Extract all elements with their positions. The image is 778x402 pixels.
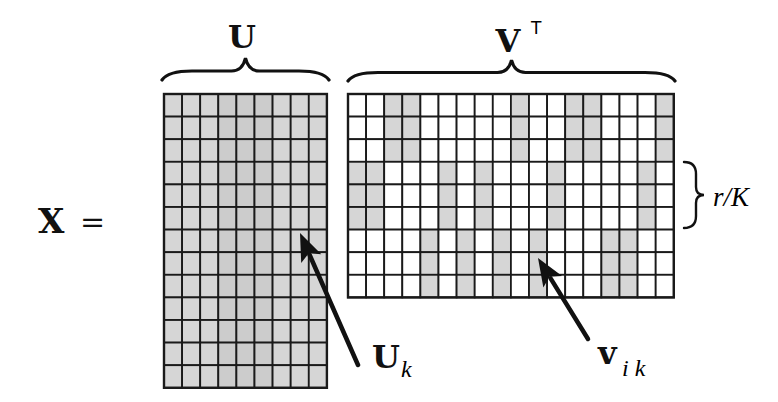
matrix-cell <box>291 184 309 207</box>
matrix-cell <box>348 252 366 275</box>
matrix-cell <box>164 365 182 388</box>
matrix-cell <box>439 139 457 162</box>
matrix-cell <box>309 117 327 140</box>
matrix-cell <box>291 297 309 320</box>
matrix-cell <box>273 117 291 140</box>
matrix-cell <box>529 139 547 162</box>
matrix-cell <box>200 117 218 140</box>
matrix-cell <box>291 365 309 388</box>
row-group-brace <box>684 162 704 228</box>
matrix-cell <box>182 117 200 140</box>
matrix-cell <box>273 343 291 366</box>
matrix-cell <box>200 365 218 388</box>
matrix-cell <box>164 320 182 343</box>
matrix-cell <box>291 117 309 140</box>
matrix-cell <box>200 275 218 298</box>
matrix-cell <box>583 275 601 298</box>
matrix-cell <box>164 275 182 298</box>
matrix-cell <box>164 207 182 230</box>
matrix-cell <box>656 275 674 298</box>
matrix-cell <box>439 117 457 140</box>
matrix-cell <box>273 320 291 343</box>
matrix-cell <box>656 94 674 117</box>
matrix-cell <box>601 162 619 185</box>
matrix-cell <box>402 252 420 275</box>
matrix-cell <box>236 275 254 298</box>
matrix-cell <box>384 117 402 140</box>
matrix-cell <box>348 207 366 230</box>
matrix-cell <box>291 207 309 230</box>
matrix-cell <box>236 94 254 117</box>
matrix-cell <box>366 184 384 207</box>
matrix-cell <box>565 275 583 298</box>
matrix-cell <box>273 297 291 320</box>
matrix-cell <box>529 230 547 253</box>
matrix-cell <box>457 207 475 230</box>
matrix-cell <box>402 275 420 298</box>
matrix-cell <box>565 184 583 207</box>
matrix-cell <box>656 184 674 207</box>
matrix-cell <box>402 139 420 162</box>
matrix-cell <box>384 207 402 230</box>
matrix-cell <box>529 207 547 230</box>
matrix-cell <box>547 117 565 140</box>
matrix-cell <box>348 139 366 162</box>
matrix-cell <box>402 207 420 230</box>
matrix-cell <box>656 207 674 230</box>
matrix-cell <box>511 252 529 275</box>
matrix-cell <box>420 162 438 185</box>
matrix-cell <box>511 139 529 162</box>
matrix-cell <box>182 343 200 366</box>
matrix-cell <box>236 343 254 366</box>
matrix-cell <box>529 162 547 185</box>
matrix-cell <box>255 184 273 207</box>
matrix-cell <box>583 162 601 185</box>
matrix-cell <box>547 162 565 185</box>
matrix-cell <box>475 184 493 207</box>
matrix-cell <box>583 139 601 162</box>
matrix-cell <box>511 230 529 253</box>
matrix-cell <box>439 230 457 253</box>
matrix-cell <box>273 94 291 117</box>
matrix-cell <box>475 139 493 162</box>
matrix-cell <box>164 117 182 140</box>
matrix-cell <box>218 252 236 275</box>
matrix-cell <box>236 139 254 162</box>
matrix-cell <box>218 94 236 117</box>
matrix-cell <box>309 365 327 388</box>
matrix-cell <box>457 94 475 117</box>
vt-brace <box>348 60 675 81</box>
matrix-cell <box>200 343 218 366</box>
matrix-cell <box>255 297 273 320</box>
matrix-cell <box>457 162 475 185</box>
svg-text:i k: i k <box>622 355 646 381</box>
matrix-cell <box>638 117 656 140</box>
equals-sign: = <box>80 204 105 239</box>
matrix-cell <box>457 252 475 275</box>
matrix-cell <box>439 252 457 275</box>
matrix-cell <box>638 162 656 185</box>
matrix-cell <box>384 139 402 162</box>
matrix-cell <box>547 94 565 117</box>
matrix-cell <box>601 139 619 162</box>
matrix-cell <box>218 343 236 366</box>
row-group-label: r/K <box>713 182 751 212</box>
matrix-cell <box>402 94 420 117</box>
matrix-cell <box>583 184 601 207</box>
matrix-cell <box>493 94 511 117</box>
matrix-cell <box>348 275 366 298</box>
matrix-cell <box>601 275 619 298</box>
matrix-cell <box>366 139 384 162</box>
matrix-cell <box>384 230 402 253</box>
matrix-cell <box>218 230 236 253</box>
matrix-cell <box>583 117 601 140</box>
matrix-cell <box>182 320 200 343</box>
u-brace <box>162 58 329 80</box>
matrix-cell <box>309 184 327 207</box>
matrix-cell <box>439 207 457 230</box>
matrix-cell <box>218 184 236 207</box>
matrix-cell <box>601 117 619 140</box>
matrix-cell <box>420 139 438 162</box>
matrix-cell <box>638 184 656 207</box>
matrix-cell <box>255 117 273 140</box>
